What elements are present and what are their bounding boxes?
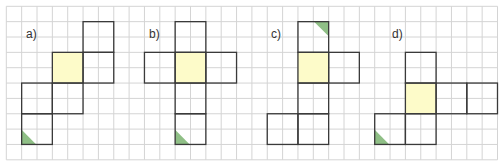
base-face-a (52, 52, 83, 83)
panel-label-a: a) (26, 28, 37, 40)
base-face-d (405, 83, 436, 114)
panel-label-b: b) (149, 28, 160, 40)
panel-label-d: d) (392, 28, 403, 40)
marker-triangle-d (375, 130, 390, 145)
base-face-c (298, 52, 329, 83)
marker-triangle-b (175, 130, 190, 145)
marker-triangle-c (314, 22, 329, 37)
marker-triangle-a (22, 130, 37, 145)
cube-nets-figure: a) b) c) d) (0, 0, 500, 167)
panel-label-c: c) (271, 28, 281, 40)
base-face-b (175, 52, 206, 83)
grid-paper (0, 0, 500, 167)
